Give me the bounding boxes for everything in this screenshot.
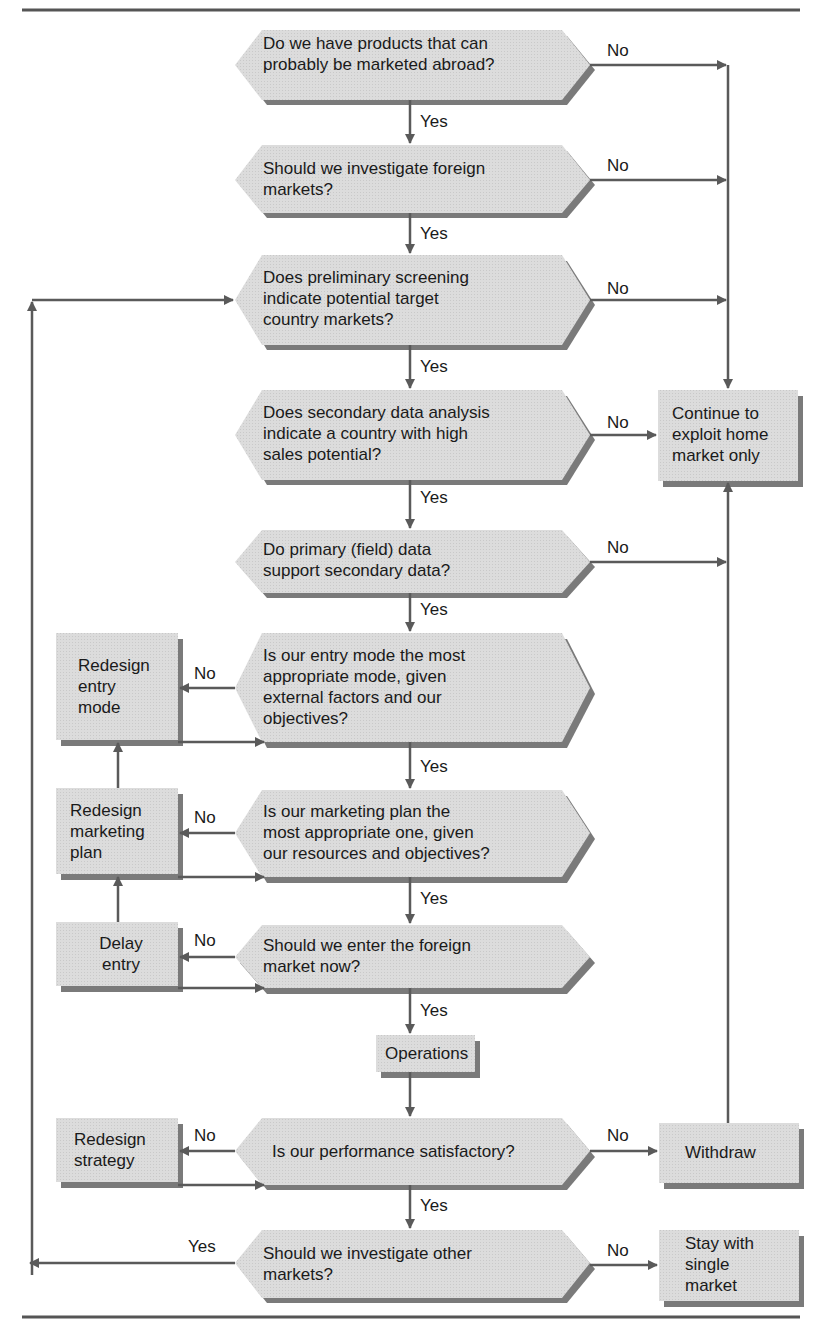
decision-d8-text: Should we enter the foreign market now? xyxy=(263,935,471,977)
decision-d5-text: Do primary (field) data support secondar… xyxy=(263,539,450,581)
edge-label-d5-no: No xyxy=(607,537,629,558)
process-strategy-text: Redesign strategy xyxy=(74,1129,146,1171)
process-withdraw-text: Withdraw xyxy=(685,1142,756,1163)
edge-label-d8-no: No xyxy=(194,930,216,951)
decision-d4-text: Does secondary data analysis indicate a … xyxy=(263,402,490,465)
edge-label-d10-yes: Yes xyxy=(188,1236,216,1257)
edge-label-d2-no: No xyxy=(607,155,629,176)
process-ops-text: Operations xyxy=(385,1043,468,1064)
decision-d3-text: Does preliminary screening indicate pote… xyxy=(263,267,469,330)
edge-label-d6-no: No xyxy=(194,663,216,684)
edge-label-d8-yes: Yes xyxy=(420,1000,448,1021)
edge-label-d9-no-left: No xyxy=(194,1125,216,1146)
edge-label-d10-no: No xyxy=(607,1240,629,1261)
process-delay-text: Delay entry xyxy=(86,933,156,975)
edge-label-d4-yes: Yes xyxy=(420,487,448,508)
decision-d1-text: Do we have products that can probably be… xyxy=(263,33,495,75)
edge-label-d2-yes: Yes xyxy=(420,223,448,244)
process-entry-text: Redesign entry mode xyxy=(78,655,150,718)
decision-d7-text: Is our marketing plan the most appropria… xyxy=(263,801,490,864)
edge-label-d6-yes: Yes xyxy=(420,756,448,777)
decision-d9-text: Is our performance satisfactory? xyxy=(272,1141,515,1162)
edge-label-d1-yes: Yes xyxy=(420,111,448,132)
decision-d6-text: Is our entry mode the most appropriate m… xyxy=(263,645,465,729)
process-plan-text: Redesign marketing plan xyxy=(70,800,145,863)
edge-label-d5-yes: Yes xyxy=(420,599,448,620)
decision-d10-text: Should we investigate other markets? xyxy=(263,1243,472,1285)
edge-label-d1-no: No xyxy=(607,40,629,61)
edge-label-d4-no: No xyxy=(607,412,629,433)
edge-label-d3-no: No xyxy=(607,278,629,299)
process-stay-text: Stay with single market xyxy=(685,1233,754,1296)
edge-label-d7-yes: Yes xyxy=(420,888,448,909)
edge-label-d3-yes: Yes xyxy=(420,356,448,377)
edge-label-d9-yes: Yes xyxy=(420,1195,448,1216)
process-home-text: Continue to exploit home market only xyxy=(672,403,768,466)
edge-label-d7-no: No xyxy=(194,807,216,828)
decision-d2-text: Should we investigate foreign markets? xyxy=(263,158,485,200)
edge-label-d9-no-right: No xyxy=(607,1125,629,1146)
